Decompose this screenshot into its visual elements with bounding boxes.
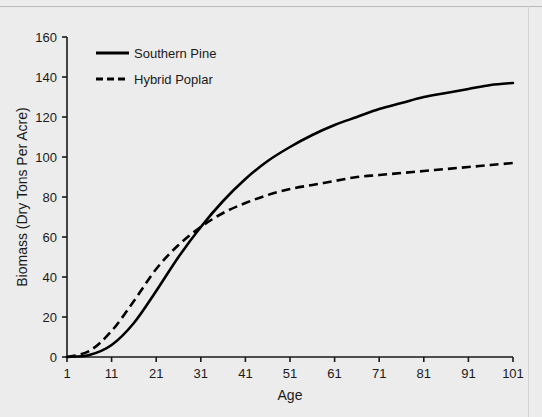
x-axis-tick-labels: 1112131415161718191101 bbox=[63, 366, 523, 381]
x-tick-label: 71 bbox=[372, 366, 386, 381]
x-tick-label: 51 bbox=[283, 366, 297, 381]
series-line-southern-pine bbox=[67, 83, 513, 357]
x-tick-label: 101 bbox=[502, 366, 524, 381]
x-tick-label: 31 bbox=[194, 366, 208, 381]
legend-label-southern-pine: Southern Pine bbox=[134, 46, 216, 61]
y-tick-label: 40 bbox=[43, 270, 57, 285]
y-tick-label: 20 bbox=[43, 310, 57, 325]
x-tick-label: 11 bbox=[105, 366, 119, 381]
x-tick-label: 1 bbox=[63, 366, 70, 381]
x-tick-label: 41 bbox=[238, 366, 252, 381]
y-tick-label: 160 bbox=[35, 30, 57, 45]
x-tick-label: 91 bbox=[461, 366, 475, 381]
y-tick-label: 100 bbox=[35, 150, 57, 165]
x-tick-label: 81 bbox=[417, 366, 431, 381]
y-tick-label: 80 bbox=[43, 190, 57, 205]
y-axis-title: Biomass (Dry Tons Per Acre) bbox=[14, 107, 30, 286]
y-tick-label: 120 bbox=[35, 110, 57, 125]
chart-legend: Southern Pine Hybrid Poplar bbox=[96, 46, 216, 87]
legend-label-hybrid-poplar: Hybrid Poplar bbox=[134, 72, 213, 87]
series-line-hybrid-poplar bbox=[67, 163, 513, 357]
y-axis-tick-labels: 020406080100120140160 bbox=[35, 30, 57, 365]
y-tick-label: 140 bbox=[35, 70, 57, 85]
chart-svg: 020406080100120140160 111213141516171819… bbox=[0, 0, 542, 417]
x-axis-title: Age bbox=[278, 387, 303, 403]
biomass-growth-chart: 020406080100120140160 111213141516171819… bbox=[0, 0, 542, 417]
chart-root: 020406080100120140160 111213141516171819… bbox=[0, 0, 542, 417]
y-tick-label: 60 bbox=[43, 230, 57, 245]
x-tick-label: 61 bbox=[327, 366, 341, 381]
y-tick-label: 0 bbox=[50, 350, 57, 365]
x-tick-label: 21 bbox=[149, 366, 163, 381]
